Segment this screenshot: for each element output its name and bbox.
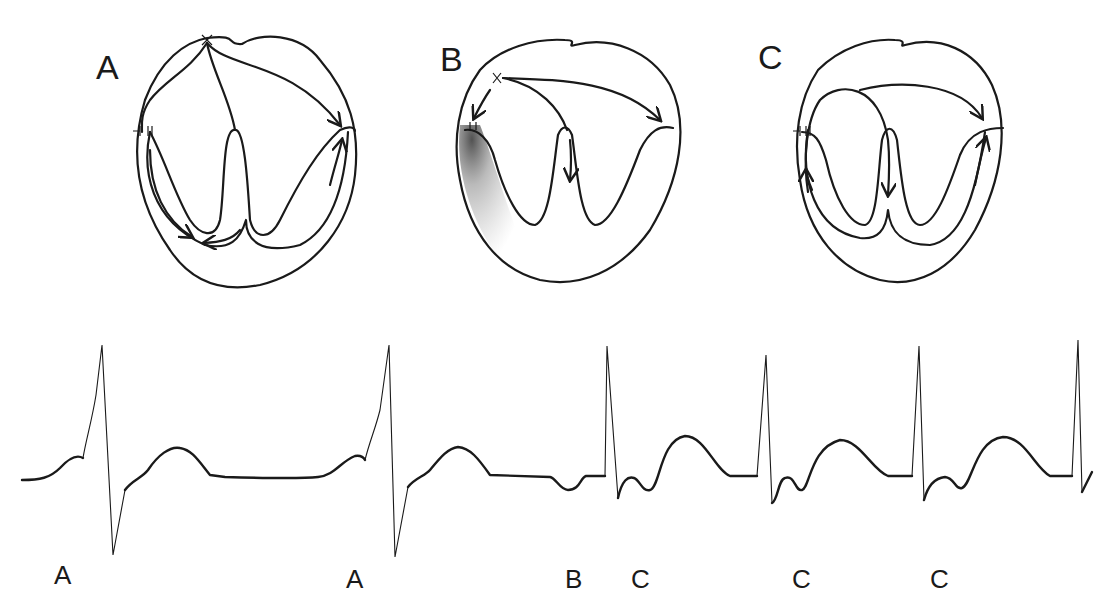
heart-b-arrow-left xyxy=(474,90,490,118)
heart-a-label: A xyxy=(96,50,119,84)
heart-c-arrow-up-right xyxy=(975,138,986,185)
ecg-beat-a1-qrs xyxy=(83,345,125,555)
ecg-beat-c2-st-t xyxy=(772,440,912,503)
heart-b-diagram xyxy=(457,40,681,282)
ecg-beat-a1-st-t xyxy=(125,448,365,490)
heart-c-path-right xyxy=(860,85,982,118)
heart-a-path-left xyxy=(142,43,207,132)
heart-c-label: C xyxy=(758,40,783,74)
ecg-beat-c3-qrs xyxy=(912,346,924,500)
heart-a-path-center xyxy=(207,43,235,130)
ecg-beat-b-qrs xyxy=(605,346,618,498)
heart-c-septum xyxy=(802,128,1003,225)
ecg-label-c3: C xyxy=(930,566,949,592)
heart-a-outline xyxy=(137,37,356,288)
ecg-label-b: B xyxy=(565,566,582,592)
heart-b-path-right xyxy=(503,78,660,120)
ecg-label-c1: C xyxy=(631,566,650,592)
heart-b-arrow-down xyxy=(570,140,571,180)
ecg-label-a1: A xyxy=(54,562,71,588)
ecg-beat-c4-qrs xyxy=(1072,340,1082,492)
ecg-label-a2: A xyxy=(346,566,363,592)
heart-a-path-right xyxy=(207,43,340,125)
heart-a-arrow-up-right xyxy=(330,140,342,185)
ecg-beat-c1-st-t xyxy=(618,436,757,498)
heart-b-origin-mark xyxy=(493,73,501,83)
heart-b-label: B xyxy=(440,42,463,76)
heart-a-diagram xyxy=(133,35,356,287)
heart-a-arrow-lower-left xyxy=(150,150,192,237)
ecg-beat-a2-qrs xyxy=(365,345,408,557)
ecg-beat-c4-tail xyxy=(1082,472,1092,492)
ecg-beat-c3-st-t xyxy=(924,437,1072,500)
ecg-beat-c2-qrs xyxy=(757,355,772,503)
figure-canvas xyxy=(0,0,1117,609)
heart-c-diagram xyxy=(793,40,1003,282)
ecg-label-c2: C xyxy=(792,566,811,592)
heart-a-septum xyxy=(150,127,355,235)
ecg-beat-a2-st-t xyxy=(408,447,605,490)
ecg-trace xyxy=(22,340,1092,557)
heart-b-path-center xyxy=(503,78,567,130)
ecg-beat-a1-p xyxy=(22,457,83,480)
